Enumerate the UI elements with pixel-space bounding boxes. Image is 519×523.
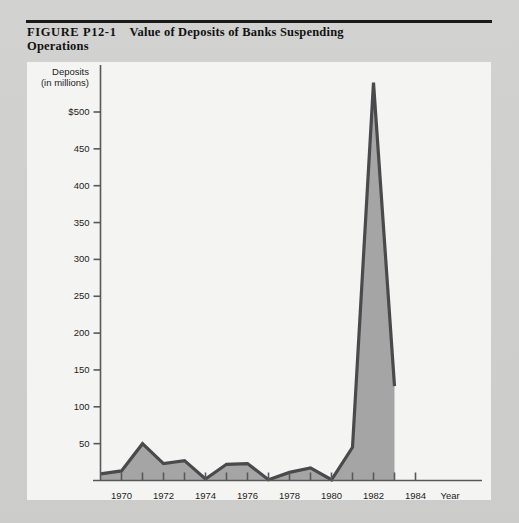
area-fill — [101, 83, 395, 481]
y-axis-ticks — [94, 112, 101, 444]
y-axis-tick-label: 50 — [27, 438, 90, 449]
y-axis-tick-label: 350 — [27, 217, 90, 228]
chart-card: Deposits (in millions) Year 501001502002… — [27, 62, 491, 500]
figure-page: FIGURE P12-1Value of Deposits of Banks S… — [0, 0, 519, 523]
y-axis-tick-label: $500 — [27, 106, 90, 117]
x-axis-tick-label: 1984 — [391, 490, 441, 501]
y-axis-tick-label: 250 — [27, 290, 90, 301]
y-axis-tick-label: 150 — [27, 364, 90, 375]
y-axis-tick-label: 450 — [27, 143, 90, 154]
header-rule — [26, 20, 492, 23]
figure-title-line1: Value of Deposits of Banks Suspending — [130, 25, 344, 39]
area-line — [101, 83, 395, 480]
figure-title-line2: Operations — [27, 39, 89, 53]
series-layer — [101, 83, 395, 481]
deposits-area-chart — [27, 62, 491, 500]
y-axis-tick-label: 300 — [27, 253, 90, 264]
figure-heading: FIGURE P12-1Value of Deposits of Banks S… — [27, 25, 497, 53]
y-axis-tick-label: 100 — [27, 401, 90, 412]
axis-layer — [93, 65, 482, 481]
y-axis-tick-label: 400 — [27, 180, 90, 191]
figure-number: FIGURE P12-1 — [27, 25, 117, 39]
y-axis-tick-label: 200 — [27, 327, 90, 338]
